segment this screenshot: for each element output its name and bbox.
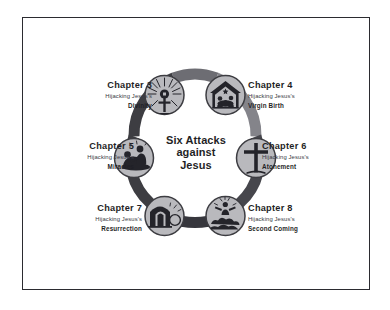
chapter-6-topic: Atonement <box>262 163 358 170</box>
chapter-8-heading: Chapter 8 <box>248 203 348 214</box>
chapter-3-heading: Chapter 3 <box>62 80 152 91</box>
chapter-8-subtitle: Hijacking Jesus's <box>248 216 348 223</box>
chapter-5-subtitle: Hijacking Jesus's <box>44 154 134 161</box>
chapter-3-subtitle: Hijacking Jesus's <box>62 93 152 100</box>
chapter-4-topic: Virgin Birth <box>248 102 344 109</box>
center-title: Six Attacks against Jesus <box>155 134 237 171</box>
chapter-4-heading: Chapter 4 <box>248 80 344 91</box>
center-title-line-1: Six Attacks <box>155 134 237 146</box>
label-chapter-7[interactable]: Chapter 7 Hijacking Jesus's Resurrection <box>52 203 142 232</box>
chapter-7-topic: Resurrection <box>52 225 142 232</box>
chapter-5-heading: Chapter 5 <box>44 141 134 152</box>
center-title-line-2: against <box>155 146 237 158</box>
chapter-7-subtitle: Hijacking Jesus's <box>52 216 142 223</box>
node-chapter-4[interactable] <box>206 76 245 115</box>
chapter-7-heading: Chapter 7 <box>52 203 142 214</box>
label-chapter-4[interactable]: Chapter 4 Hijacking Jesus's Virgin Birth <box>248 80 344 109</box>
chapter-8-topic: Second Coming <box>248 225 348 232</box>
label-chapter-5[interactable]: Chapter 5 Hijacking Jesus's Miracles <box>44 141 134 170</box>
node-chapter-8[interactable] <box>206 197 245 236</box>
label-chapter-3[interactable]: Chapter 3 Hijacking Jesus's Divinity <box>62 80 152 109</box>
label-chapter-8[interactable]: Chapter 8 Hijacking Jesus's Second Comin… <box>248 203 348 232</box>
center-title-line-3: Jesus <box>155 159 237 171</box>
chapter-6-heading: Chapter 6 <box>262 141 358 152</box>
chapter-6-subtitle: Hijacking Jesus's <box>262 154 358 161</box>
node-chapter-7[interactable] <box>145 197 184 236</box>
chapter-5-topic: Miracles <box>44 163 134 170</box>
chapter-4-subtitle: Hijacking Jesus's <box>248 93 344 100</box>
chapter-3-topic: Divinity <box>62 102 152 109</box>
label-chapter-6[interactable]: Chapter 6 Hijacking Jesus's Atonement <box>262 141 358 170</box>
